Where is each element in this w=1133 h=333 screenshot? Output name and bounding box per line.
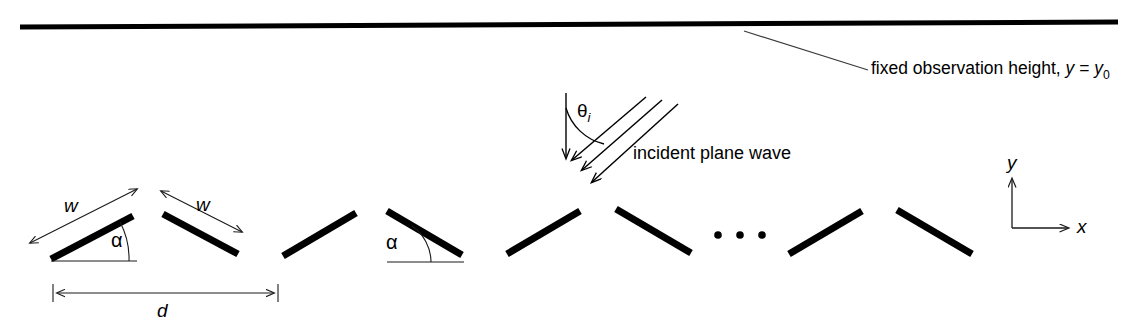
- observation-height-text: fixed observation height,: [871, 58, 1066, 78]
- observation-height-equals: =: [1074, 58, 1094, 78]
- observation-height-line: [20, 22, 1118, 27]
- incidence-angle-label: θi: [577, 100, 591, 125]
- grating-plate: [507, 211, 580, 254]
- observation-height-y0-base: y: [1094, 58, 1103, 78]
- observation-height-label: fixed observation height, y = y0: [871, 58, 1110, 82]
- ellipsis-dot: [736, 231, 744, 239]
- incident-plane-wave-label: incident plane wave: [633, 143, 791, 164]
- tilt-angle-label: α: [111, 229, 123, 252]
- grating-plate: [616, 209, 691, 253]
- figure-canvas: [0, 0, 1133, 333]
- observation-label-leader-line: [744, 31, 868, 70]
- observation-height-y0-subscript: 0: [1103, 68, 1110, 82]
- grating-plate: [897, 210, 972, 254]
- axis-x-label: x: [1077, 216, 1087, 238]
- period-label: d: [157, 300, 168, 322]
- axis-y-label: y: [1007, 152, 1017, 174]
- plate-width-label: w: [196, 194, 210, 216]
- tilt-angle-label: α: [386, 231, 398, 254]
- diffraction-grating-figure: fixed observation height, y = y0 inciden…: [0, 0, 1133, 333]
- grating-plate: [283, 213, 356, 256]
- plate-width-label: w: [64, 195, 78, 217]
- grating-plate: [789, 211, 862, 254]
- ellipsis-dot: [758, 231, 766, 239]
- ellipsis-dot: [714, 231, 722, 239]
- theta-base: θ: [577, 100, 588, 121]
- grating-plate: [387, 211, 462, 255]
- grating-plate: [163, 214, 238, 254]
- theta-subscript: i: [588, 110, 591, 125]
